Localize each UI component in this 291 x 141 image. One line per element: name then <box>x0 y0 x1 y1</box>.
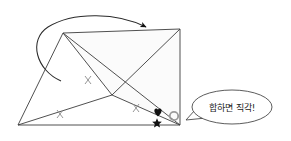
shaded-region <box>63 29 180 125</box>
diagram-canvas: 합하면 직각! <box>0 0 291 141</box>
segment-interior-to-bottom-left <box>18 95 112 125</box>
star-icon <box>152 118 162 127</box>
speech-bubble-text: 합하면 직각! <box>209 102 255 113</box>
geometry-diagram: 합하면 직각! <box>0 0 291 141</box>
tick-interior <box>85 76 91 84</box>
